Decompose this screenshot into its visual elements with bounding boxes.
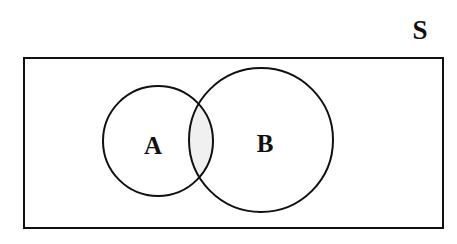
set-label-b: B (257, 130, 274, 157)
venn-diagram-canvas: S A B (0, 0, 457, 244)
set-label-a: A (144, 132, 162, 159)
universe-label-s: S (412, 15, 427, 45)
venn-diagram-svg: S A B (0, 0, 457, 244)
